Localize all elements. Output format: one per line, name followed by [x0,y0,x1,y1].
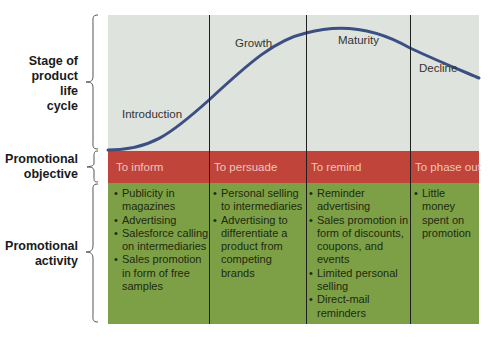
activity-item: Advertising [114,214,209,227]
activity-item: Publicity in magazines [114,187,209,214]
objective-phase-out: To phase out [407,151,481,183]
stage-growth: Growth [235,37,272,49]
activity-column-decline: Little money spent on promotion [414,187,474,240]
activity-item: Little money spent on promotion [414,187,474,240]
stage-maturity: Maturity [338,34,379,46]
activity-item: Salesforce calling on intermediaries [114,227,209,254]
activity-column-introduction: Publicity in magazines Advertising Sales… [114,187,209,293]
objective-persuade: To persuade [206,151,277,183]
stage-introduction: Introduction [122,108,182,120]
activity-item: Personal selling to intermediaries [213,187,305,214]
stage-decline: Decline [419,62,457,74]
activity-column-maturity: Reminder advertising Sales promotion in … [309,187,409,320]
activity-item: Direct-mail reminders [309,293,409,320]
activity-item: Sales promotion in form of free samples [114,253,209,293]
activity-item: Reminder advertising [309,187,409,214]
objective-inform: To inform [108,151,163,183]
activity-column-growth: Personal selling to intermediaries Adver… [213,187,305,280]
activity-item: Limited personal selling [309,267,409,294]
activity-item: Advertising to differentiate a product f… [213,214,305,280]
objective-remind: To remind [303,151,362,183]
activity-item: Sales promotion in form of discounts, co… [309,214,409,267]
